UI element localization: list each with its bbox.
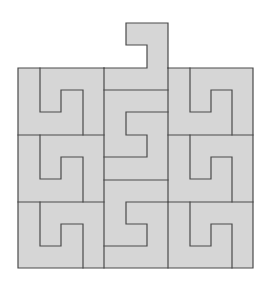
grid-fill: [18, 68, 253, 268]
fill-regions: [18, 23, 253, 268]
tiling-diagram: [0, 0, 270, 284]
